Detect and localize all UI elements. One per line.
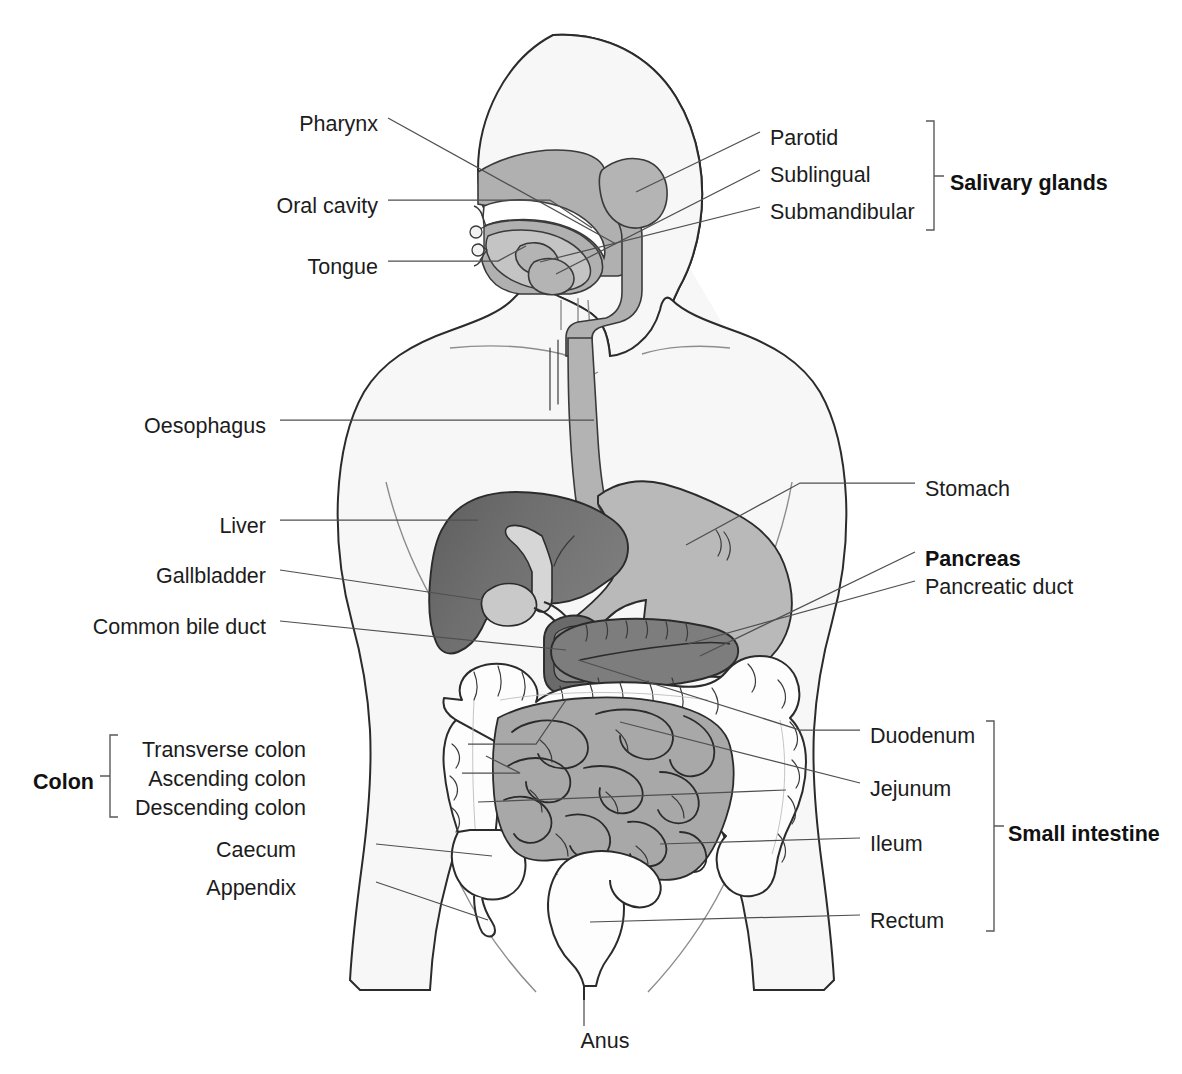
label-ascending-colon: Ascending colon [148,767,306,791]
label-sublingual: Sublingual [770,163,870,187]
label-parotid: Parotid [770,126,838,150]
label-tongue: Tongue [307,255,378,279]
label-salivary-glands: Salivary glands [950,171,1108,195]
label-colon: Colon [33,770,94,794]
digestive-system-figure: Pharynx Oral cavity Tongue Oesophagus Li… [0,0,1182,1074]
label-appendix: Appendix [206,876,296,900]
colon-bracket [100,735,118,817]
salivary-glands-bracket [926,121,944,230]
label-pancreas: Pancreas [925,547,1021,571]
label-liver: Liver [219,514,266,538]
label-pancreatic-duct: Pancreatic duct [925,575,1073,599]
label-gallbladder: Gallbladder [156,564,266,588]
small-intestine-bracket [986,721,1004,931]
rectum-group [548,851,661,1000]
groin-line-left [460,884,536,992]
label-anus: Anus [580,1029,629,1053]
gallbladder-shape [481,584,536,627]
label-duodenum: Duodenum [870,724,975,748]
label-stomach: Stomach [925,477,1010,501]
label-oral-cavity: Oral cavity [276,194,378,218]
label-common-bile-duct: Common bile duct [93,615,266,639]
labels-left-group: Pharynx Oral cavity Tongue Oesophagus Li… [93,112,379,900]
pancreas-shape [551,619,738,687]
diagram-canvas: Pharynx Oral cavity Tongue Oesophagus Li… [0,0,1182,1074]
lip-lower [472,244,484,256]
labels-bottom-group: Anus [580,1029,629,1053]
label-ileum: Ileum [870,832,923,856]
lip-upper [470,226,482,238]
label-oesophagus: Oesophagus [144,414,266,438]
groin-line-right [648,884,724,992]
label-jejunum: Jejunum [870,777,951,801]
label-rectum: Rectum [870,909,944,933]
label-caecum: Caecum [216,838,296,862]
label-pharynx: Pharynx [299,112,378,136]
label-descending-colon: Descending colon [135,796,306,820]
label-transverse-colon: Transverse colon [142,738,306,762]
label-submandibular: Submandibular [770,200,915,224]
label-small-intestine: Small intestine [1008,822,1160,846]
